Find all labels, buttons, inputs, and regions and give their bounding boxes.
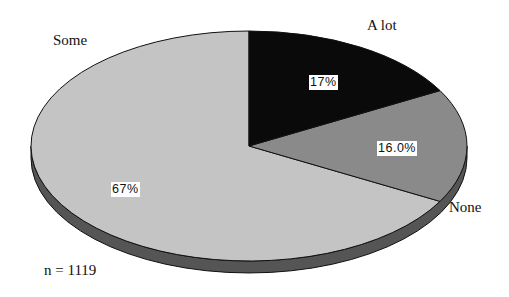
pct-a-lot: 17% (309, 75, 338, 90)
label-some: Some (53, 32, 87, 49)
pct-some: 67% (111, 182, 140, 197)
pct-none: 16.0% (377, 141, 417, 156)
label-a-lot: A lot (367, 17, 397, 34)
sample-size-note: n = 1119 (44, 262, 96, 279)
label-none: None (449, 199, 482, 216)
